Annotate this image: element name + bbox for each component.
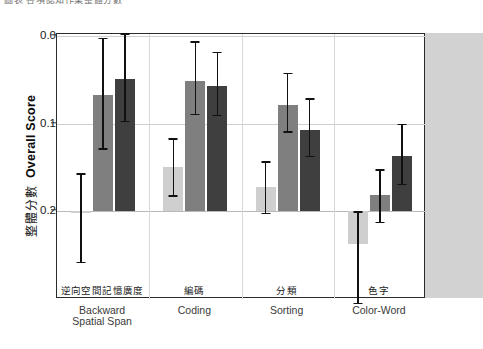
x-label-en-3: Sorting [270, 305, 303, 316]
error-bar-cap-lower [283, 131, 292, 133]
error-bar-cap-lower [213, 115, 222, 117]
group-separator [242, 34, 243, 299]
group-separator [149, 34, 150, 299]
error-bar-cap-upper [305, 98, 314, 100]
cut-off-header-text: 圖表 各項認知作業整體分數 [4, 0, 122, 6]
y-axis-title: 整體分數 Overall Score [8, 33, 52, 298]
error-bar-cap-upper [283, 73, 292, 75]
error-bar-cap-lower [169, 195, 178, 197]
x-label-cn-1: 逆向空間記憶廣度 [61, 283, 144, 297]
error-bar [217, 52, 219, 115]
error-bar [379, 169, 381, 222]
right-shaded-panel [425, 33, 483, 298]
chart-screenshot: 圖表 各項認知作業整體分數 0.20.10.0 整體分數 Overall Sco… [0, 0, 483, 349]
error-bar [357, 211, 359, 303]
y-axis-title-cn: 整體分數 [22, 185, 39, 237]
error-bar-cap-upper [261, 161, 270, 163]
x-label-en-1: BackwardSpatial Span [72, 305, 132, 327]
error-bar-cap-lower [375, 222, 384, 224]
plot-area [56, 33, 425, 298]
y-axis-title-en: Overall Score [23, 94, 37, 177]
error-bar-cap-lower [261, 213, 270, 215]
error-bar-cap-lower [121, 121, 130, 123]
x-label-cn-4: 色字 [368, 283, 389, 297]
error-bar [287, 73, 289, 132]
error-bar-cap-lower [397, 184, 406, 186]
x-label-cn-2: 編碼 [184, 283, 205, 297]
x-label-cn-3: 分類 [276, 283, 297, 297]
error-bar-cap-lower [191, 114, 200, 116]
error-bar-cap-upper [353, 211, 362, 213]
error-bar-cap-lower [99, 148, 108, 150]
error-bar-cap-lower [77, 262, 86, 264]
group-separator [334, 34, 335, 299]
error-bar [124, 33, 126, 121]
error-bar-cap-upper [169, 138, 178, 140]
error-bar-cap-upper [375, 169, 384, 171]
x-label-en-2: Coding [178, 305, 211, 316]
error-bar-cap-upper [121, 33, 130, 35]
error-bar-cap-upper [213, 52, 222, 54]
error-bar [401, 124, 403, 184]
error-bar-cap-upper [397, 124, 406, 126]
error-bar-cap-upper [191, 41, 200, 43]
error-bar-cap-upper [99, 38, 108, 40]
error-bar [102, 38, 104, 148]
x-label-en-4: Color-Word [352, 305, 405, 316]
cut-off-header-strip: 圖表 各項認知作業整體分數 [0, 0, 483, 7]
error-bar-cap-upper [77, 173, 86, 175]
error-bar [80, 173, 82, 261]
error-bar [265, 161, 267, 213]
error-bar [195, 41, 197, 114]
error-bar [309, 98, 311, 156]
error-bar-cap-lower [305, 156, 314, 158]
error-bar [173, 138, 175, 195]
